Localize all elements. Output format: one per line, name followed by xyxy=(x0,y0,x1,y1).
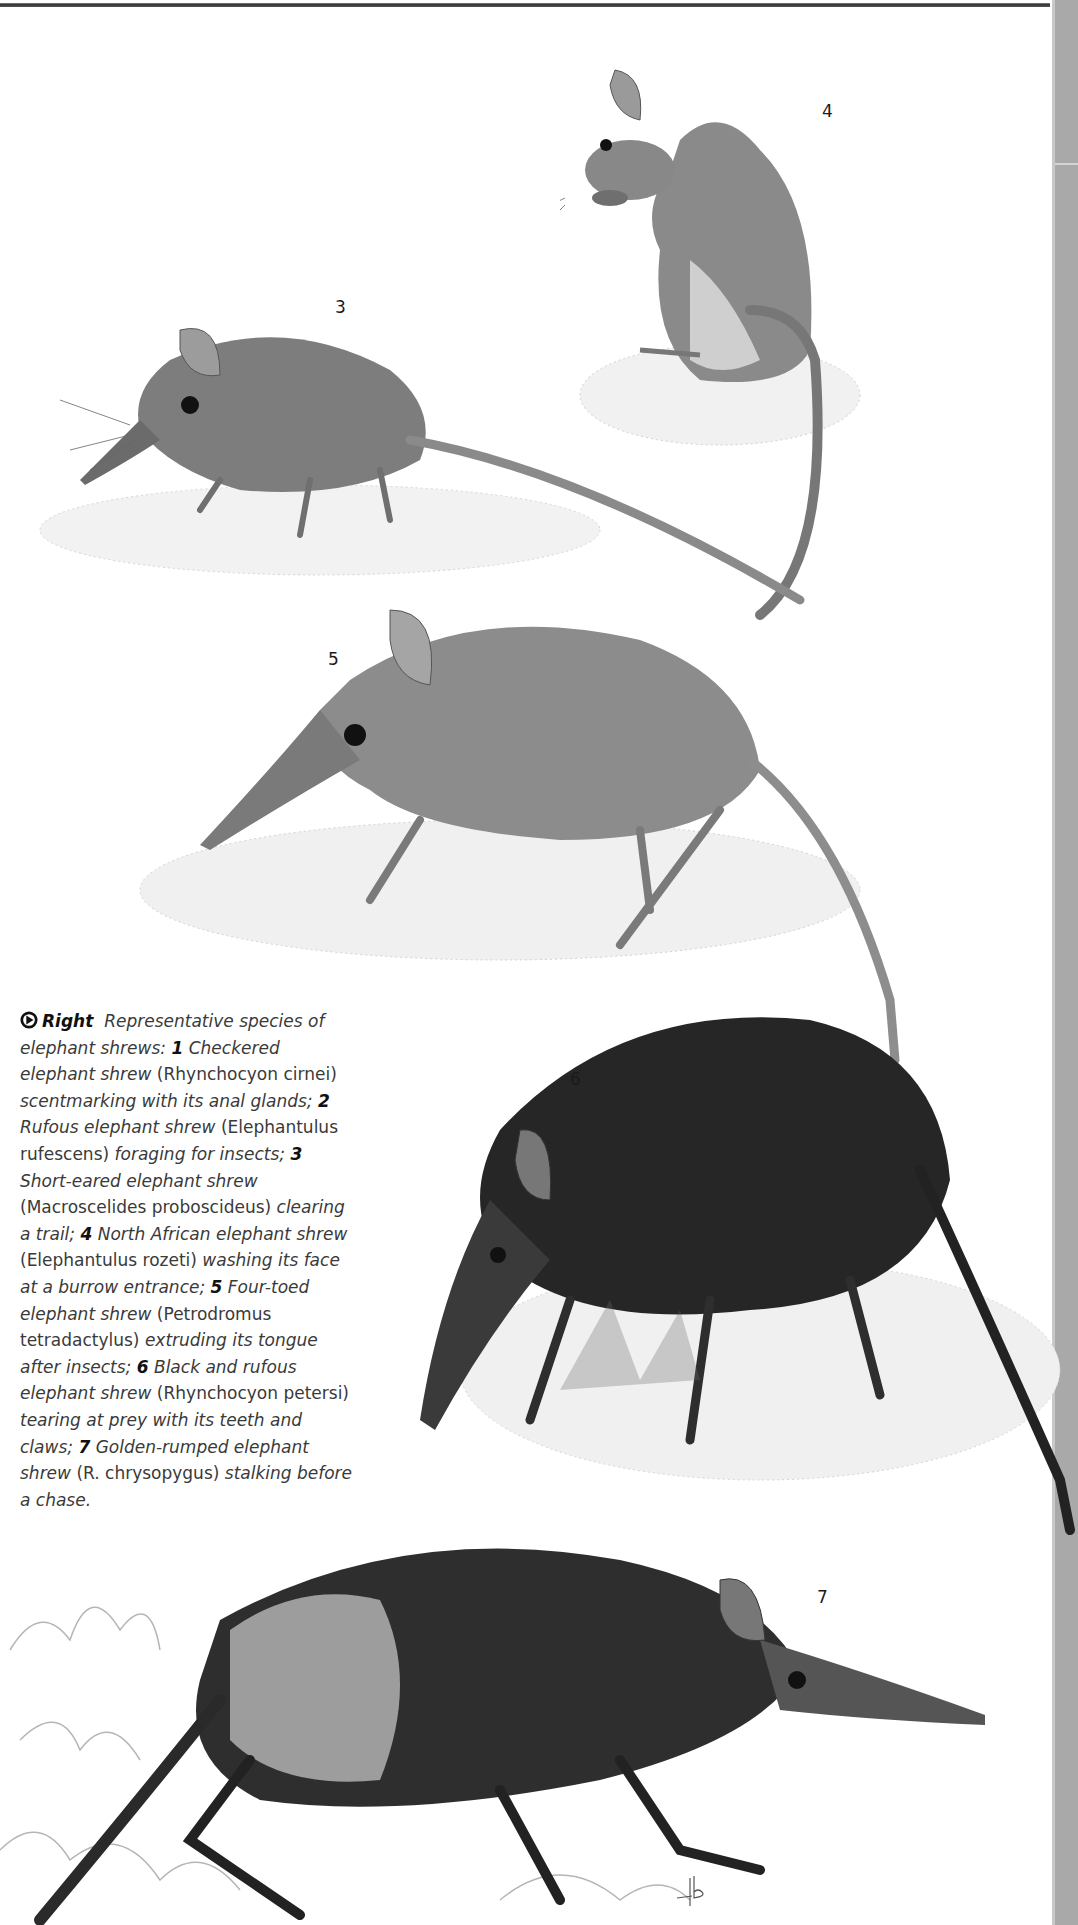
illustration-6-black-and-rufous-elephant-shrew xyxy=(380,1000,1075,1540)
plate-label-7: 7 xyxy=(817,1587,828,1607)
caption-latin-name: (Rhynchocyon petersi) xyxy=(157,1383,349,1403)
caption-latin-name: (Elephantulus rozeti) xyxy=(20,1250,202,1270)
artist-signature-mark xyxy=(672,1868,712,1908)
page-edge-notch xyxy=(1055,163,1078,165)
caption-species-number: 6 xyxy=(137,1357,149,1377)
caption-italic-text: foraging for insects; xyxy=(115,1144,291,1164)
illustration-7-golden-rumped-elephant-shrew xyxy=(0,1520,1000,1925)
caption-italic-text: Short-eared elephant shrew xyxy=(20,1171,258,1191)
caption-species-number: 5 xyxy=(211,1277,223,1297)
caption-species-number: 7 xyxy=(78,1437,90,1457)
caption-species-number: 3 xyxy=(290,1144,302,1164)
page-edge-thumb-tab xyxy=(1052,0,1078,1925)
caption-italic-text: North African elephant shrew xyxy=(92,1224,347,1244)
plate-label-5: 5 xyxy=(328,649,339,669)
plate-label-3: 3 xyxy=(335,297,346,317)
right-arrow-circle-icon xyxy=(20,1011,38,1029)
caption-species-number: 2 xyxy=(318,1091,330,1111)
plate-label-6: 6 xyxy=(570,1069,581,1089)
caption-lead: Right xyxy=(42,1011,93,1031)
caption-italic-text: scentmarking with its anal glands; xyxy=(20,1091,318,1111)
caption-italic-text: Rufous elephant shrew xyxy=(20,1117,221,1137)
artist-signature xyxy=(672,1868,712,1912)
caption-latin-name: (Rhynchocyon cirnei) xyxy=(157,1064,337,1084)
caption-species-number: 4 xyxy=(80,1224,92,1244)
illustration-3-short-eared-elephant-shrew xyxy=(20,300,820,610)
top-rule xyxy=(0,3,1050,7)
figure-caption: Right Representative species of elephant… xyxy=(20,1008,355,1513)
caption-latin-name: (Macroscelides proboscideus) xyxy=(20,1197,277,1217)
caption-body: Representative species of elephant shrew… xyxy=(20,1011,352,1510)
caption-latin-name: (R. chrysopygus) xyxy=(76,1463,224,1483)
caption-species-number: 1 xyxy=(171,1038,183,1058)
plate-label-4: 4 xyxy=(822,101,833,121)
